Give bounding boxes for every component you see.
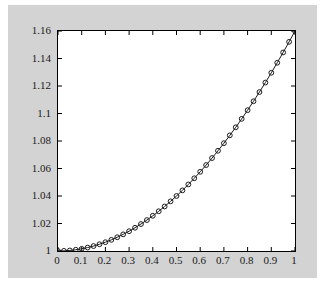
figure-canvas: 11.021.041.061.081.11.121.141.16 00.10.2… — [8, 5, 317, 278]
x-tick-label: 1 — [279, 254, 309, 266]
y-tick-label: 1.16 — [9, 24, 51, 36]
axes-area — [57, 30, 296, 252]
y-tick-label: 1.12 — [9, 79, 51, 91]
y-tick-label: 1.14 — [9, 52, 51, 64]
data-series-line — [58, 31, 295, 251]
plot-svg — [58, 31, 295, 251]
figure-window: 11.021.041.061.081.11.121.141.16 00.10.2… — [0, 0, 326, 292]
y-tick-label: 1.06 — [9, 162, 51, 174]
y-tick-label: 1.1 — [9, 107, 51, 119]
y-tick-label: 1.08 — [9, 134, 51, 146]
y-tick-label: 1.04 — [9, 189, 51, 201]
y-tick-label: 1.02 — [9, 217, 51, 229]
